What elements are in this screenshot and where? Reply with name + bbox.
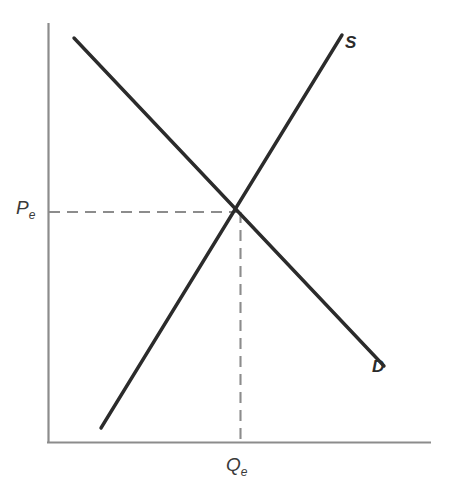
demand-curve-label: D (372, 358, 384, 375)
equilibrium-price-symbol: P (16, 197, 29, 218)
supply-curve-label: S (345, 34, 356, 51)
equilibrium-quantity-symbol: Q (226, 454, 241, 475)
chart-canvas (0, 0, 451, 501)
equilibrium-price-subscript: e (29, 208, 36, 222)
supply-demand-chart: S D Pe Qe (0, 0, 451, 501)
equilibrium-quantity-label: Qe (226, 455, 247, 474)
equilibrium-quantity-subscript: e (241, 465, 248, 479)
demand-curve (74, 38, 384, 366)
supply-curve (101, 35, 342, 428)
equilibrium-price-label: Pe (16, 198, 35, 217)
